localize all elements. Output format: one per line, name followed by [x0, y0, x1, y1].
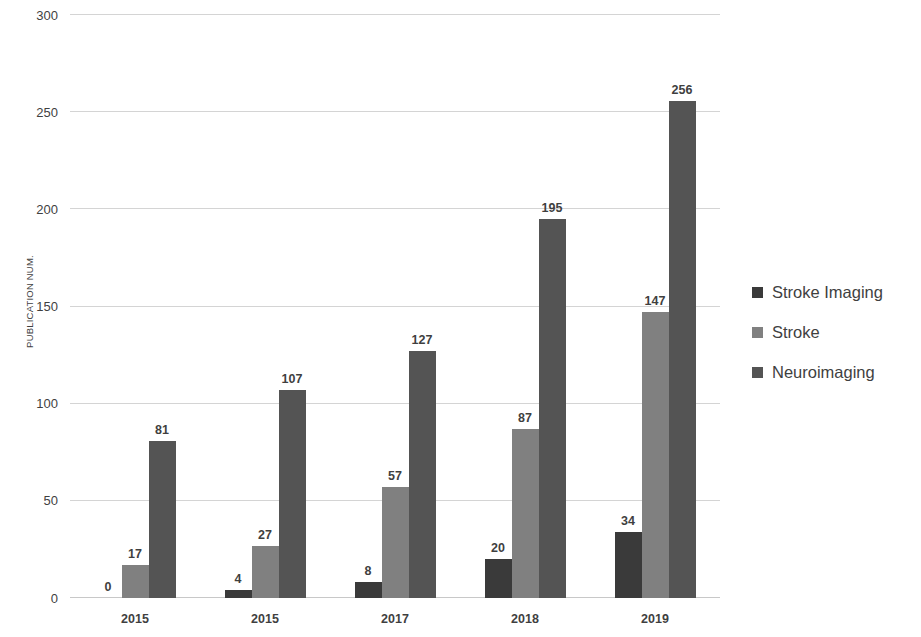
bar-value-label: 87 [518, 411, 532, 425]
bar[interactable] [669, 101, 696, 598]
bar-value-label: 195 [542, 201, 563, 215]
legend-item[interactable]: Stroke Imaging [752, 272, 917, 312]
bar-slot: 127 [409, 15, 436, 598]
bar-value-label: 27 [258, 528, 272, 542]
x-tick-label: 2017 [381, 612, 409, 626]
bar-value-label: 0 [105, 580, 112, 594]
legend-label: Stroke [772, 323, 820, 342]
legend-swatch-icon [752, 367, 763, 378]
bar[interactable] [355, 582, 382, 598]
bar[interactable] [512, 429, 539, 598]
bar-slot: 27 [252, 15, 279, 598]
bar-value-label: 147 [645, 294, 666, 308]
bar-value-label: 8 [365, 564, 372, 578]
bar-value-label: 34 [621, 514, 635, 528]
x-tick-label: 2019 [641, 612, 669, 626]
bar[interactable] [225, 590, 252, 598]
y-tick-label: 100 [36, 396, 58, 411]
x-tick-label: 2015 [121, 612, 149, 626]
bar[interactable] [642, 312, 669, 598]
legend-item[interactable]: Neuroimaging [752, 352, 917, 392]
bar[interactable] [149, 441, 176, 598]
bar-chart: PUBLICATION NUM. 050100150200250300 0178… [0, 0, 921, 637]
bar-group-bars: 34147256 [590, 15, 720, 598]
bar-value-label: 81 [155, 423, 169, 437]
bar[interactable] [252, 546, 279, 598]
bar-slot: 57 [382, 15, 409, 598]
bar-value-label: 107 [282, 372, 303, 386]
plot-area: 050100150200250300 017812015427107201585… [70, 15, 720, 598]
legend-swatch-icon [752, 327, 763, 338]
y-axis-title: PUBLICATION NUM. [24, 232, 35, 372]
y-tick-label: 250 [36, 104, 58, 119]
legend-label: Neuroimaging [772, 363, 875, 382]
legend: Stroke ImagingStrokeNeuroimaging [752, 272, 917, 392]
y-tick-label: 0 [51, 590, 58, 605]
bar[interactable] [539, 219, 566, 598]
bar-group-bars: 427107 [200, 15, 330, 598]
bar[interactable] [382, 487, 409, 598]
y-tick-label: 200 [36, 201, 58, 216]
bar-group: 20871952018 [460, 15, 590, 598]
bar-value-label: 4 [235, 572, 242, 586]
legend-label: Stroke Imaging [772, 283, 883, 302]
bar-slot: 256 [669, 15, 696, 598]
bar-slot: 4 [225, 15, 252, 598]
bar-group-bars: 857127 [330, 15, 460, 598]
bar-slot: 17 [122, 15, 149, 598]
bar-slot: 107 [279, 15, 306, 598]
bar-slot: 147 [642, 15, 669, 598]
bar-groups: 0178120154271072015857127201720871952018… [70, 15, 720, 598]
bar[interactable] [122, 565, 149, 598]
bar-value-label: 256 [672, 83, 693, 97]
bar-group: 341472562019 [590, 15, 720, 598]
bar-slot: 20 [485, 15, 512, 598]
bar-slot: 8 [355, 15, 382, 598]
y-tick-label: 150 [36, 299, 58, 314]
bar-slot: 34 [615, 15, 642, 598]
x-tick-label: 2015 [251, 612, 279, 626]
y-tick-label: 300 [36, 7, 58, 22]
bar-value-label: 57 [388, 469, 402, 483]
bar-group: 8571272017 [330, 15, 460, 598]
legend-item[interactable]: Stroke [752, 312, 917, 352]
bar-value-label: 20 [491, 541, 505, 555]
bar-group: 017812015 [70, 15, 200, 598]
x-tick-label: 2018 [511, 612, 539, 626]
y-tick-label: 50 [44, 493, 58, 508]
bar[interactable] [485, 559, 512, 598]
bar-group: 4271072015 [200, 15, 330, 598]
bar-slot: 81 [149, 15, 176, 598]
bar[interactable] [279, 390, 306, 598]
bar-group-bars: 2087195 [460, 15, 590, 598]
bar[interactable] [409, 351, 436, 598]
bar-group-bars: 01781 [70, 15, 200, 598]
legend-swatch-icon [752, 287, 763, 298]
bar-slot: 0 [95, 15, 122, 598]
bar-value-label: 127 [412, 333, 433, 347]
bar-slot: 87 [512, 15, 539, 598]
bar[interactable] [615, 532, 642, 598]
bar-value-label: 17 [128, 547, 142, 561]
bar-slot: 195 [539, 15, 566, 598]
